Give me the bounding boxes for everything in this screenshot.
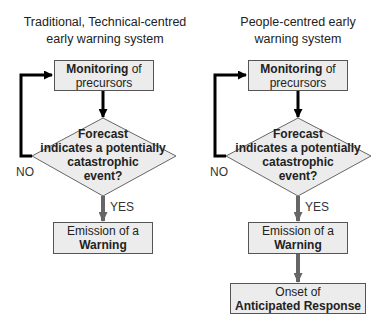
right-yes-label: YES — [305, 200, 329, 214]
right-no-label: NO — [210, 165, 228, 179]
decision-line1: Forecast — [233, 127, 363, 141]
right-decision-text: Forecast indicates a potentially catastr… — [233, 127, 363, 183]
monitor-line2: precursors — [76, 76, 133, 90]
right-title-line2: warning system — [218, 31, 378, 48]
left-title-line1: Traditional, Technical-centred — [10, 14, 200, 31]
emission-line1: Emission of a — [262, 224, 334, 238]
monitor-line2: precursors — [270, 76, 327, 90]
emission-line2: Warning — [274, 238, 322, 252]
emission-line1: Emission of a — [67, 224, 139, 238]
left-emission-box: Emission of a Warning — [53, 222, 153, 254]
left-title-line2: early warning system — [10, 31, 200, 48]
left-monitoring-box: Monitoring of precursors — [54, 60, 154, 91]
decision-line1: Forecast — [38, 127, 168, 141]
left-title: Traditional, Technical-centred early war… — [10, 14, 200, 48]
decision-line2: indicates a potentially — [38, 141, 168, 155]
decision-line3: catastrophic — [233, 155, 363, 169]
decision-line2: indicates a potentially — [233, 141, 363, 155]
right-title-line1: People-centred early — [218, 14, 378, 31]
left-yes-label: YES — [110, 200, 134, 214]
left-decision-text: Forecast indicates a potentially catastr… — [38, 127, 168, 183]
decision-line3: catastrophic — [38, 155, 168, 169]
decision-line4: event? — [38, 169, 168, 183]
monitor-rest: of — [128, 62, 141, 76]
monitor-bold: Monitoring — [66, 62, 128, 76]
decision-line4: event? — [233, 169, 363, 183]
monitor-rest: of — [322, 62, 335, 76]
right-title: People-centred early warning system — [218, 14, 378, 48]
onset-line2: Anticipated Response — [235, 299, 361, 313]
right-emission-box: Emission of a Warning — [248, 222, 348, 254]
monitor-bold: Monitoring — [260, 62, 322, 76]
left-no-label: NO — [16, 165, 34, 179]
onset-line1: Onset of — [275, 285, 320, 299]
emission-line2: Warning — [79, 238, 127, 252]
right-onset-box: Onset of Anticipated Response — [230, 283, 366, 314]
right-monitoring-box: Monitoring of precursors — [248, 60, 348, 91]
